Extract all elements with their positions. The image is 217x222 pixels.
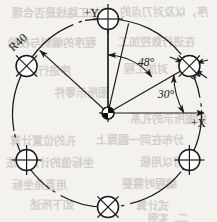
radius-label: R40 [6, 30, 30, 54]
hole-270deg [97, 196, 118, 217]
hole-330deg [174, 145, 204, 175]
x-axis-label: +X [191, 117, 206, 129]
center-mark [101, 107, 115, 120]
angle-30-label: 30° [157, 88, 175, 100]
angle-arc-30 [174, 75, 184, 113]
hole-150deg [16, 55, 37, 76]
radius-dimension-line [40, 50, 108, 113]
hole-210deg [12, 145, 42, 175]
hole-30deg [179, 55, 200, 76]
angle-48-label: 48° [138, 56, 155, 68]
engineering-drawing: 的加工路线是否合理序，以及对刀点的程序的编制与校验在进行数控加工序进行检查对加工… [0, 0, 217, 222]
radius-line-48deg-ray [108, 23, 129, 113]
drawing-canvas: +Y +X 48° 30° R40 φ8 [0, 0, 217, 222]
